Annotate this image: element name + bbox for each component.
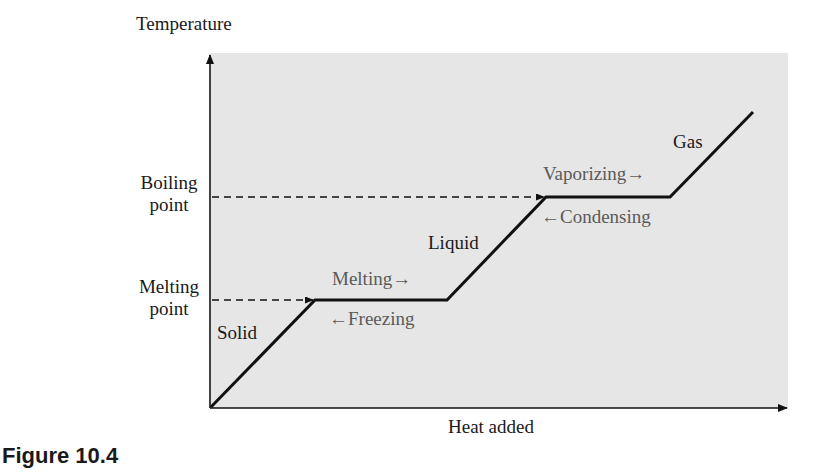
figure-caption: Figure 10.4: [2, 443, 118, 469]
y-axis-title: Temperature: [136, 13, 232, 35]
plot-panel: [211, 53, 788, 408]
x-axis-title: Heat added: [448, 416, 534, 438]
phase-label-solid: Solid: [217, 322, 257, 344]
transition-label-melting: Melting→: [332, 268, 411, 290]
phase-label-liquid: Liquid: [428, 232, 479, 254]
phase-label-gas: Gas: [673, 131, 703, 153]
transition-label-condensing: ←Condensing: [541, 206, 651, 228]
heating-curve-chart: [0, 0, 817, 476]
melting-label-line1: Melting: [133, 276, 205, 298]
boiling-label-line2: point: [135, 194, 203, 216]
transition-label-freezing: ←Freezing: [329, 308, 414, 330]
melting-point-label: Melting point: [133, 276, 205, 320]
boiling-label-line1: Boiling: [135, 172, 203, 194]
transition-label-vaporizing: Vaporizing→: [543, 163, 645, 185]
melting-label-line2: point: [133, 298, 205, 320]
boiling-point-label: Boiling point: [135, 172, 203, 216]
